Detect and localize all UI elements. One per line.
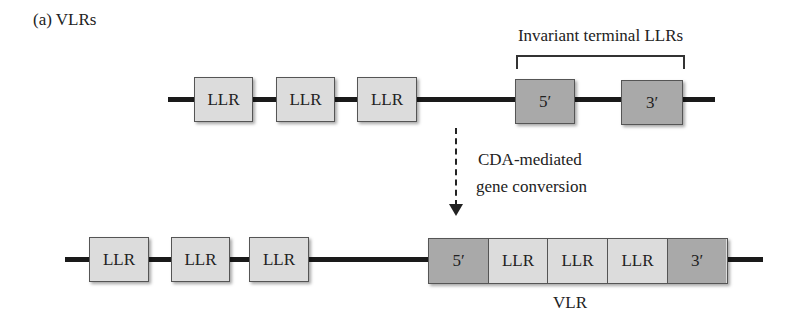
vlr-segment-llr-2: LLR bbox=[548, 239, 608, 283]
terminal-5prime-box: 5′ bbox=[515, 79, 575, 124]
vlr-segment-llr-3: LLR bbox=[608, 239, 668, 283]
llr-cassette-5: LLR bbox=[171, 237, 230, 282]
llr-cassette-2: LLR bbox=[276, 77, 335, 122]
llr-cassette-3: LLR bbox=[357, 77, 417, 122]
llr-cassette-4: LLR bbox=[89, 237, 149, 282]
terminal-3prime-box: 3′ bbox=[621, 80, 683, 125]
dashed-arrow-shaft bbox=[455, 128, 457, 206]
llr-cassette-6: LLR bbox=[249, 237, 309, 282]
panel-title: (a) VLRs bbox=[33, 10, 96, 30]
llr-cassette-1: LLR bbox=[194, 77, 253, 122]
vlr-segment-5prime: 5′ bbox=[429, 239, 489, 283]
invariant-bracket bbox=[516, 55, 685, 69]
vlr-label: VLR bbox=[540, 293, 600, 313]
vlr-segment-3prime: 3′ bbox=[668, 239, 726, 283]
process-label-line2: gene conversion bbox=[476, 177, 587, 197]
assembled-vlr-gene: 5′ LLR LLR LLR 3′ bbox=[428, 238, 728, 284]
process-label-line1: CDA-mediated bbox=[478, 150, 582, 170]
arrow-down-icon bbox=[449, 204, 463, 216]
invariant-terminal-label: Invariant terminal LLRs bbox=[498, 26, 703, 46]
vlr-segment-llr-1: LLR bbox=[489, 239, 548, 283]
